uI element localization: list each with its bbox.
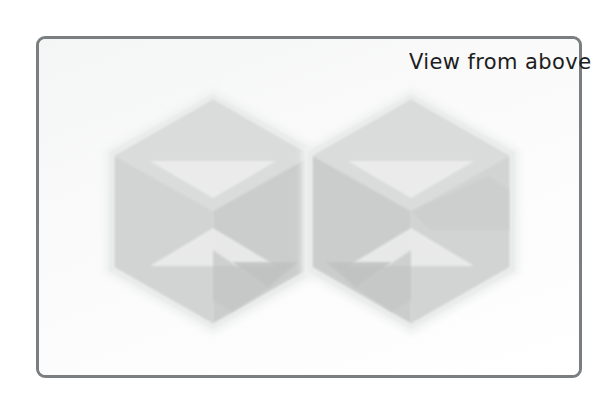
panel-background	[39, 39, 579, 375]
illustration-canvas: View from above	[0, 0, 613, 399]
page-title: View from above	[409, 50, 591, 74]
hand-drawn-panel-border	[36, 36, 582, 378]
